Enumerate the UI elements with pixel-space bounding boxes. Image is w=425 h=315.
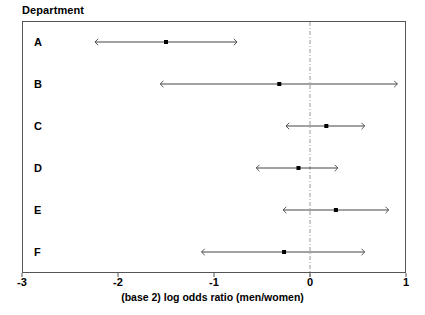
category-label-c: C bbox=[34, 121, 42, 132]
x-tick-label: 0 bbox=[307, 277, 313, 288]
x-axis-label: (base 2) log odds ratio (men/women) bbox=[0, 291, 425, 303]
chart-root: Department ABCDEF -3-2-101 (base 2) log … bbox=[0, 0, 425, 315]
category-label-b: B bbox=[34, 79, 42, 90]
category-label-d: D bbox=[34, 163, 42, 174]
category-label-e: E bbox=[34, 205, 41, 216]
category-label-a: A bbox=[34, 37, 42, 48]
x-tick-label: -2 bbox=[113, 277, 123, 288]
category-label-f: F bbox=[34, 247, 41, 258]
plot-area bbox=[22, 21, 406, 273]
chart-title: Department bbox=[22, 3, 84, 17]
x-tick-label: -1 bbox=[209, 277, 219, 288]
x-tick-label: -3 bbox=[17, 277, 27, 288]
x-tick-label: 1 bbox=[403, 277, 409, 288]
